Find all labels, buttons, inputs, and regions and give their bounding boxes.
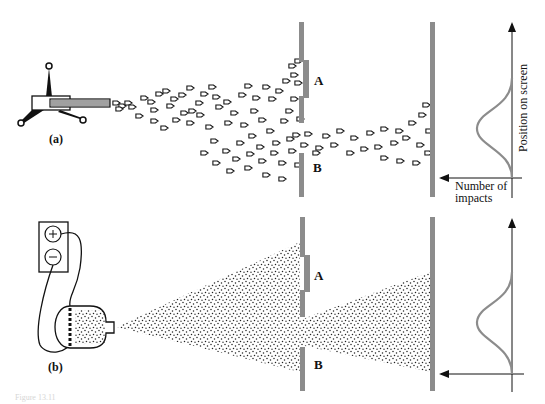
bullet-icon	[141, 96, 148, 100]
bullet-icon	[391, 141, 398, 145]
bullet-icon	[196, 101, 203, 105]
bullet-icon	[267, 129, 274, 133]
bullet-icon	[213, 95, 220, 99]
bullet-icon	[423, 103, 430, 107]
bullet-icon	[136, 114, 143, 118]
bullet-icon	[148, 100, 155, 104]
bullet-icon	[269, 97, 276, 101]
bullet-icon	[181, 111, 188, 115]
bullet-icon	[396, 129, 403, 133]
bullet-icon	[237, 141, 244, 145]
bullet-icon	[125, 101, 132, 105]
bullet-icon	[263, 173, 270, 177]
bullet-icon	[381, 127, 388, 131]
bullet-icon	[173, 118, 180, 122]
impact-graph-a	[441, 24, 522, 198]
bullet-icon	[291, 73, 298, 77]
bullet-icon	[189, 109, 196, 113]
bullet-icon	[253, 96, 260, 100]
bullet-stream	[113, 59, 433, 181]
bullet-icon	[179, 93, 186, 97]
bullet-icon	[381, 156, 388, 160]
bullet-icon	[216, 105, 223, 109]
distribution-curve-b	[477, 272, 512, 374]
bullet-icon	[224, 100, 231, 104]
panel-b	[38, 217, 524, 392]
bullet-icon	[249, 134, 256, 138]
bullet-icon	[293, 133, 300, 137]
slit-barrier-a	[299, 22, 309, 197]
panel-a	[18, 22, 522, 198]
bullet-icon	[129, 105, 136, 109]
slit-label-b-top: A	[314, 268, 323, 284]
axis-label-position: Position on screen	[516, 64, 531, 152]
bullet-icon	[161, 126, 168, 130]
bullet-icon	[331, 143, 338, 147]
slit-label-b-bottom: B	[314, 357, 323, 373]
bullet-icon	[291, 97, 298, 101]
bullet-icon	[279, 177, 286, 181]
bullet-icon	[271, 151, 278, 155]
bullet-icon	[417, 143, 424, 147]
bullet-icon	[227, 169, 234, 173]
bullet-icon	[409, 121, 416, 125]
axis-label-impacts: Number of impacts	[455, 180, 507, 204]
slit-label-a-top: A	[314, 73, 323, 89]
bullet-icon	[413, 161, 420, 165]
distribution-curve-a	[477, 78, 512, 178]
bullet-icon	[283, 79, 290, 83]
bullet-icon	[263, 85, 270, 89]
bullet-icon	[156, 92, 163, 96]
bullet-icon	[301, 143, 308, 147]
bullet-icon	[171, 97, 178, 101]
bullet-icon	[239, 93, 246, 97]
bullet-icon	[225, 121, 232, 125]
bullet-icon	[187, 121, 194, 125]
bullet-icon	[347, 151, 354, 155]
figure-caption: Figure 13.11	[15, 393, 56, 402]
bullet-icon	[223, 149, 230, 153]
bullet-icon	[276, 89, 283, 93]
bullet-icon	[187, 86, 194, 90]
bullet-icon	[313, 151, 320, 155]
bullet-icon	[201, 151, 208, 155]
bullet-icon	[213, 161, 220, 165]
bullet-icon	[397, 159, 404, 163]
bullet-icon	[247, 152, 254, 156]
bullet-icon	[233, 157, 240, 161]
bullet-icon	[273, 141, 280, 145]
bullet-icon	[201, 92, 208, 96]
machine-gun-icon	[18, 63, 110, 126]
bullet-icon	[257, 145, 264, 149]
bullet-icon	[375, 145, 382, 149]
bullet-icon	[279, 161, 286, 165]
bullet-icon	[351, 136, 358, 140]
panel-label-b: (b)	[48, 360, 63, 375]
bullet-icon	[245, 84, 252, 88]
bullet-icon	[245, 166, 252, 170]
bullet-icon	[361, 147, 368, 151]
bullet-icon	[209, 85, 216, 89]
bullet-icon	[367, 131, 374, 135]
slit-barrier-b	[300, 217, 310, 391]
electron-cloud-incident	[116, 242, 300, 372]
bullet-icon	[337, 129, 344, 133]
bullet-icon	[259, 118, 266, 122]
bullet-icon	[151, 119, 158, 123]
bullet-icon	[305, 132, 312, 136]
bullet-icon	[289, 149, 296, 153]
bullet-icon	[116, 107, 123, 111]
electron-gun-icon	[55, 306, 114, 348]
bullet-icon	[289, 64, 296, 68]
bullet-icon	[197, 113, 204, 117]
detection-screen-a	[430, 22, 435, 197]
bullet-icon	[251, 109, 258, 113]
bullet-icon	[151, 108, 158, 112]
bullet-icon	[316, 146, 323, 150]
impact-graph-b	[441, 220, 524, 392]
bullet-icon	[286, 109, 293, 113]
bullet-icon	[206, 125, 213, 129]
panel-label-a: (a)	[49, 132, 63, 147]
bullet-icon	[167, 104, 174, 108]
detection-screen-b	[430, 217, 435, 391]
